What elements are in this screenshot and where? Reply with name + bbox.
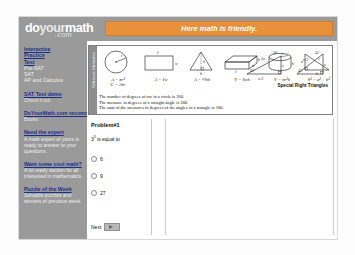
sidebar-group-interactive: Interactive Practice Test Pre-SAT SAT AP… — [24, 46, 83, 84]
sidebar-desc-cool-math: A lot ready section for all interested i… — [24, 167, 83, 179]
answer-option-3-label: 27 — [100, 190, 106, 196]
tagline-text: Here math is friendly. — [106, 22, 332, 35]
svg-text:30°: 30° — [273, 51, 279, 55]
footer-strip — [87, 235, 338, 240]
circle-diagram: r — [101, 48, 135, 76]
reference-notes: The number of degrees of arc in a circle… — [99, 94, 329, 111]
svg-text:45°: 45° — [315, 51, 320, 55]
reference-note-3: The sum of the measures in degrees of th… — [99, 105, 329, 111]
svg-text:b: b — [200, 71, 202, 76]
svg-text:x: x — [323, 63, 326, 67]
tagline-banner: Here math is friendly. — [105, 21, 333, 36]
sidebar-group-sat-demo: SAT Test demo Check it out — [24, 91, 83, 103]
next-label: Next — [91, 224, 101, 230]
sidebar-group-cool-math: Want some cool math? A lot ready section… — [24, 161, 83, 179]
figure-triangle: h b A = ½bh — [185, 48, 219, 80]
radio-icon[interactable] — [91, 190, 97, 196]
sidebar-item-ap-calculus[interactable]: AP and Calculus — [24, 77, 83, 83]
svg-text:45°: 45° — [298, 69, 303, 73]
problem-title: Problem#1 — [91, 122, 148, 128]
rectangle-diagram: ℓ w — [141, 48, 181, 76]
reference-information-panel: Reference Information r A = πr² C = 2πr — [88, 45, 333, 115]
sidebar-group-expert: Need the expert A math expert of yours i… — [24, 129, 83, 153]
answer-option-1-label: 6 — [100, 156, 103, 162]
radio-icon[interactable] — [91, 173, 97, 179]
radio-icon[interactable] — [91, 156, 97, 162]
quiz-panel: Problem#1 33 is equal to 6 9 27 Next — [88, 119, 152, 237]
page-root: doyourmath .com Here math is friendly. I… — [0, 0, 355, 255]
sidebar-subtext-books: Books — [24, 116, 83, 122]
content-column-3 — [166, 119, 334, 237]
site-header: doyourmath .com Here math is friendly. — [19, 17, 337, 41]
figure-circle: r A = πr² C = 2πr — [101, 48, 135, 80]
special-right-triangles-label: Special Right Triangles — [277, 83, 328, 88]
sidebar-desc-puzzle: Solvable puzzles and winners of previous… — [24, 192, 83, 204]
svg-text:ℓ: ℓ — [235, 70, 237, 74]
svg-text:ℓ: ℓ — [157, 50, 159, 55]
problem-question: 33 is equal to — [91, 135, 148, 142]
circle-circumference-formula: C = 2πr — [101, 82, 135, 87]
svg-text:w: w — [175, 61, 178, 66]
svg-text:2x: 2x — [261, 56, 265, 61]
svg-text:x: x — [281, 64, 284, 68]
next-button[interactable] — [104, 223, 120, 231]
sidebar: Interactive Practice Test Pre-SAT SAT AP… — [19, 41, 87, 240]
next-row: Next — [91, 223, 120, 231]
triangle-diagram: h b — [185, 48, 219, 76]
reference-tab-label: Reference Information — [92, 48, 96, 92]
site-container: doyourmath .com Here math is friendly. I… — [18, 16, 338, 240]
triangle-area-formula: A = ½bh — [185, 77, 219, 82]
svg-text:h: h — [203, 59, 205, 64]
sidebar-desc-expert: A math expert of yours is ready to answe… — [24, 136, 83, 154]
sidebar-subtext-check-it-out: Check it out — [24, 97, 83, 103]
content-column-2 — [153, 119, 166, 237]
svg-text:x√2: x√2 — [302, 58, 309, 62]
special-right-triangles-diagram: 2x 30° 60° x x√3 x√2 45° 45° x x — [241, 48, 331, 84]
answer-option-1[interactable]: 6 — [91, 156, 148, 162]
figure-rectangle: ℓ w A = ℓw — [141, 48, 181, 80]
main-content: Reference Information r A = πr² C = 2πr — [87, 41, 338, 240]
answer-option-2[interactable]: 9 — [91, 173, 148, 179]
answer-option-3[interactable]: 27 — [91, 190, 148, 196]
question-tail: is equal to — [96, 136, 120, 142]
sidebar-group-recommends: DoYourMath.com recommends Books — [24, 110, 83, 122]
logo-do-text: do — [25, 21, 39, 35]
answer-option-2-label: 9 — [100, 173, 103, 179]
svg-text:x: x — [307, 77, 310, 81]
svg-text:60°: 60° — [250, 69, 256, 73]
rectangle-area-formula: A = ℓw — [141, 77, 181, 82]
svg-text:r: r — [121, 53, 123, 58]
logo-com-text: .com — [55, 31, 72, 38]
svg-text:x√3: x√3 — [257, 77, 264, 81]
site-logo[interactable]: doyourmath .com — [25, 19, 93, 35]
reference-tab: Reference Information — [89, 46, 97, 114]
sidebar-group-puzzle: Puzzle of the Week Solvable puzzles and … — [24, 186, 83, 204]
